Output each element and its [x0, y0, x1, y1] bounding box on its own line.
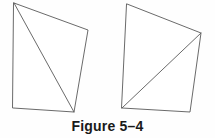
- figure-caption: Figure 5–4: [0, 118, 215, 135]
- figure-container: Figure 5–4: [0, 0, 215, 138]
- right-quadrilateral: [122, 4, 201, 112]
- left-quadrilateral: [13, 3, 88, 112]
